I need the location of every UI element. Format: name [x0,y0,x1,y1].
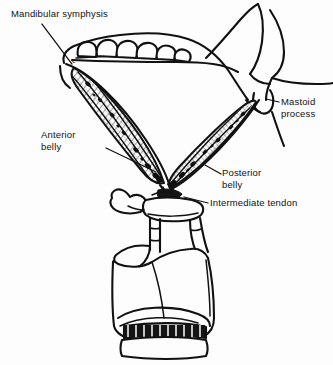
cricoid-and-trachea [120,320,212,359]
anatomy-illustration [0,0,333,365]
label-mastoid-process: Mastoid process [281,96,315,119]
leader-posterior-belly [205,165,221,174]
anterior-belly [60,60,180,195]
leader-mandibular-symphysis [42,24,72,64]
label-anterior-belly: Anterior belly [41,129,75,152]
label-posterior-belly: Posterior belly [222,167,261,190]
label-mandibular-symphysis: Mandibular symphysis [11,8,108,20]
digastric-muscle-figure: Mandibular symphysis Mastoid process Ant… [0,0,333,365]
label-intermediate-tendon: Intermediate tendon [210,197,297,209]
larynx-superior-horns [150,218,208,252]
teeth [78,40,191,62]
label-symphysis-marker: c [72,57,76,65]
